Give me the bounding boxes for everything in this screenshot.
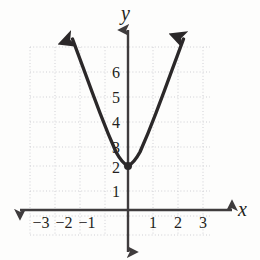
y-tick-label-2: 2 <box>104 160 120 176</box>
grid-lines <box>30 47 210 235</box>
x-tick-label-3: 3 <box>194 215 212 231</box>
y-tick-label-6: 6 <box>104 65 120 81</box>
x-tick-label-1: 1 <box>144 215 162 231</box>
vertex-point <box>124 162 132 170</box>
y-tick-label-4: 4 <box>104 115 120 131</box>
y-tick-label-5: 5 <box>104 90 120 106</box>
y-axis-label: y <box>121 3 130 23</box>
x-axis-label: x <box>238 199 247 219</box>
x-tick-label-neg3: −3 <box>30 215 52 231</box>
graph-figure: 2 1 3 4 5 6 −3 −2 −1 1 2 3 y x <box>0 0 260 260</box>
x-tick-label-neg1: −1 <box>76 215 98 231</box>
y-tick-label-1: 1 <box>104 184 120 200</box>
y-tick-label-3: 3 <box>104 140 120 156</box>
x-tick-label-2: 2 <box>169 215 187 231</box>
x-tick-label-neg2: −2 <box>53 215 75 231</box>
